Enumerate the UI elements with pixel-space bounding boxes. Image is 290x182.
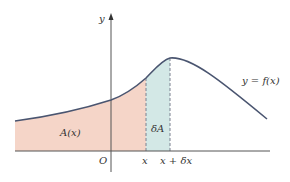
delta-area-strip <box>146 58 170 151</box>
area-region <box>15 78 146 151</box>
delta-area-label: δA <box>151 123 164 134</box>
curve-label: y = f(x) <box>241 75 280 86</box>
y-axis-label: y <box>98 13 105 24</box>
area-under-curve-diagram: y O x x + δx A(x) δA y = f(x) <box>0 0 290 182</box>
x-plus-dx-label: x + δx <box>160 155 192 166</box>
origin-label: O <box>99 155 107 166</box>
y-axis-arrow-icon <box>109 13 114 20</box>
x-label: x <box>142 155 148 166</box>
area-label: A(x) <box>59 127 81 138</box>
